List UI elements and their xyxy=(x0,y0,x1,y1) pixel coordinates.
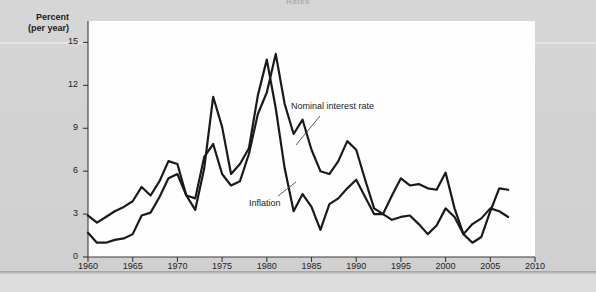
y-tick-label: 15 xyxy=(52,36,78,46)
series-label-inflation: Inflation xyxy=(249,198,281,208)
series-layer xyxy=(88,54,508,243)
x-tick-label: 1980 xyxy=(250,261,284,271)
figure-root: Rates Percent (per year) 03691215 196019… xyxy=(0,0,596,292)
x-tick-label: 1970 xyxy=(160,261,194,271)
x-tick-label: 2010 xyxy=(518,261,552,271)
y-tick-label: 6 xyxy=(52,165,78,175)
y-tick-label: 3 xyxy=(52,208,78,218)
x-tick-label: 2005 xyxy=(473,261,507,271)
x-tick-label: 1985 xyxy=(295,261,329,271)
x-tick-label: 1975 xyxy=(205,261,239,271)
y-tick-label: 12 xyxy=(52,79,78,89)
bottom-strip xyxy=(0,274,596,292)
y-tick-label: 9 xyxy=(52,122,78,132)
series-line-nominal-interest-rate xyxy=(88,54,508,243)
y-tick-label: 0 xyxy=(52,251,78,261)
x-tick-label: 1960 xyxy=(71,261,105,271)
x-tick-label: 1995 xyxy=(384,261,418,271)
x-tick-label: 1965 xyxy=(116,261,150,271)
x-tick-label: 1990 xyxy=(339,261,373,271)
x-tick-label: 2000 xyxy=(429,261,463,271)
series-label-nominal-interest-rate: Nominal interest rate xyxy=(291,101,374,111)
chart-canvas xyxy=(0,0,596,292)
series-line-inflation xyxy=(88,60,508,243)
